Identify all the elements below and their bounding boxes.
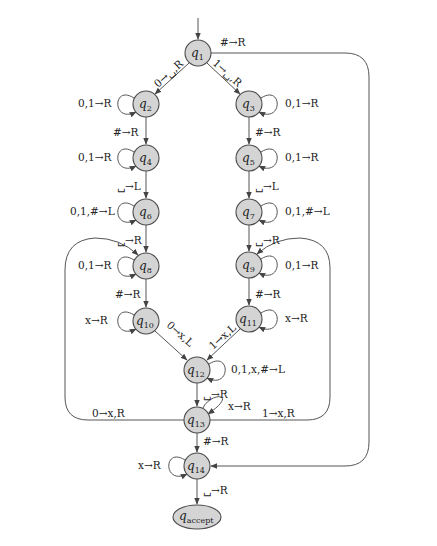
label-q7-q9: ␣→R: [255, 234, 281, 247]
label-q14-qaccept: ␣→R: [203, 484, 229, 497]
label-q4-q6: ␣→L: [117, 180, 141, 193]
label-q3-q5: #→R: [255, 126, 282, 138]
label-q14-loop: x→R: [138, 459, 162, 471]
label-q9-loop: 0,1→R: [285, 259, 319, 271]
label-q8-q10: #→R: [115, 288, 142, 300]
label-q13-q8: 0→x,R: [92, 407, 126, 419]
state-q5: q5: [236, 145, 262, 171]
state-q10: q10: [133, 308, 159, 334]
label-q12-loop: 0,1,x,#→L: [231, 363, 285, 375]
turing-machine-state-diagram: q1 q2 q3 q4 q5 q6 q7 q8 q9 q10 q11: [0, 0, 437, 546]
label-q11-loop: x→R: [285, 312, 309, 324]
label-q6-loop: 0,1,#→L: [70, 205, 115, 217]
label-q2-q4: #→R: [113, 126, 140, 138]
state-q11: q11: [236, 306, 262, 332]
state-q6: q6: [133, 199, 159, 225]
label-q1-q14: #→R: [220, 36, 247, 48]
label-q13-q9: 1→x,R: [262, 407, 296, 419]
label-q9-q11: #→R: [255, 288, 282, 300]
state-q12: q12: [184, 357, 210, 383]
label-q2-loop: 0,1→R: [78, 97, 112, 109]
label-q5-q7: ␣→L: [255, 180, 279, 193]
label-q1-q2: 0→␣,R: [151, 57, 186, 91]
state-qaccept: qaccept: [173, 505, 221, 529]
label-q1-q3: 1→␣,R: [210, 57, 245, 91]
label-q13-q14: #→R: [203, 435, 230, 447]
state-q3: q3: [236, 91, 262, 117]
label-q4-loop: 0,1→R: [78, 151, 112, 163]
state-q9: q9: [236, 252, 262, 278]
state-q2: q2: [133, 91, 159, 117]
label-q6-q8: ␣→R: [117, 234, 143, 247]
state-q8: q8: [133, 253, 159, 279]
label-q13-loop: x→R: [228, 400, 252, 412]
label-q11-q12: 1→x,L: [206, 321, 238, 351]
label-q3-loop: 0,1→R: [285, 97, 319, 109]
label-q8-loop: 0,1→R: [78, 259, 112, 271]
state-q14: q14: [184, 453, 210, 479]
state-q1: q1: [185, 40, 211, 66]
label-q12-q13: ␣→R: [203, 388, 229, 401]
state-q7: q7: [236, 199, 262, 225]
label-q10-loop: x→R: [85, 314, 109, 326]
state-q13: q13: [184, 407, 210, 433]
label-q5-loop: 0,1→R: [285, 151, 319, 163]
state-q4: q4: [133, 145, 159, 171]
label-q7-loop: 0,1,#→L: [285, 205, 330, 217]
